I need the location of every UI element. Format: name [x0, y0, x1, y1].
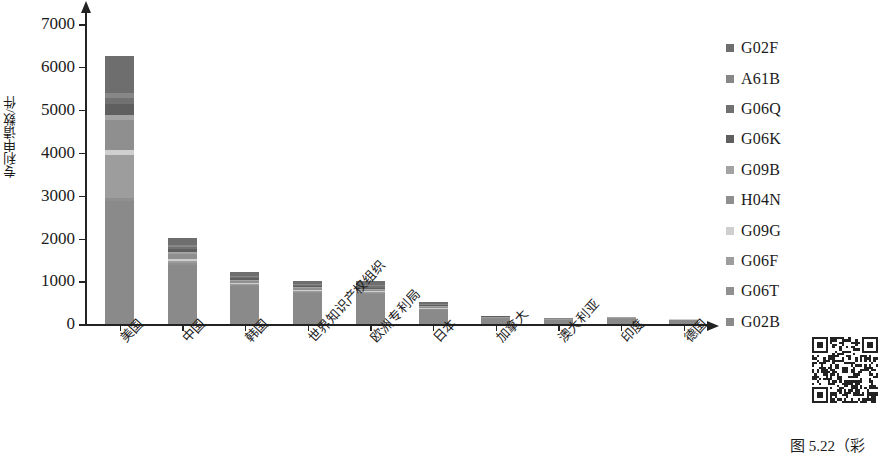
bar-2[interactable] [168, 238, 197, 325]
legend-label: G06F [741, 253, 778, 269]
legend-swatch-icon [726, 196, 734, 204]
legend-label: G09G [741, 223, 781, 239]
legend-item-G06K[interactable]: G06K [726, 124, 876, 154]
legend-item-G02F[interactable]: G02F [726, 33, 876, 63]
legend-item-G02B[interactable]: G02B [726, 307, 876, 337]
legend-label: H04N [741, 192, 781, 208]
y-tick-label: 1000 [41, 271, 75, 291]
legend-swatch-icon [726, 257, 734, 265]
bar-segment-G02B [105, 201, 134, 324]
legend-swatch-icon [726, 166, 734, 174]
bar-segment-G06K [105, 104, 134, 115]
legend-label: G09B [741, 162, 780, 178]
bar-segment-G02F [168, 238, 197, 245]
chart-legend: G02FA61BG06QG06KG09BH04NG09GG06FG06TG02B [726, 33, 876, 337]
bar-segment-H04N [105, 120, 134, 150]
y-tick-label: 5000 [41, 100, 75, 120]
legend-item-G06Q[interactable]: G06Q [726, 94, 876, 124]
legend-label: G02F [741, 40, 778, 56]
legend-swatch-icon [726, 287, 734, 295]
legend-swatch-icon [726, 44, 734, 52]
bar-segment-G02F [105, 56, 134, 92]
legend-swatch-icon [726, 105, 734, 113]
y-tick-label: 0 [67, 314, 76, 334]
legend-label: G06K [741, 131, 781, 147]
bar-1[interactable] [105, 56, 134, 324]
legend-item-G09B[interactable]: G09B [726, 155, 876, 185]
legend-swatch-icon [726, 75, 734, 83]
y-tick-mark [79, 324, 86, 325]
chart-plot-area: 专利申请数/件 01000200030004000500060007000 美国… [0, 0, 720, 457]
legend-label: A61B [741, 71, 780, 87]
legend-label: G06T [741, 283, 779, 299]
qr-code-icon[interactable] [812, 337, 878, 403]
y-tick-label: 3000 [41, 186, 75, 206]
legend-item-G06F[interactable]: G06F [726, 246, 876, 276]
legend-label: G06Q [741, 101, 781, 117]
figure-container: 专利申请数/件 01000200030004000500060007000 美国… [0, 0, 891, 457]
bar-segment-G06F [105, 155, 134, 198]
legend-swatch-icon [726, 227, 734, 235]
bar-series-group [85, 13, 715, 324]
y-tick-label: 4000 [41, 143, 75, 163]
y-tick-label: 7000 [41, 14, 75, 34]
figure-caption: 图 5.22（彩 [790, 434, 865, 455]
legend-item-G09G[interactable]: G09G [726, 215, 876, 245]
y-axis-title: 专利申请数/件 [2, 96, 22, 178]
legend-swatch-icon [726, 135, 734, 143]
y-tick-label: 6000 [41, 57, 75, 77]
legend-item-H04N[interactable]: H04N [726, 185, 876, 215]
legend-label: G02B [741, 314, 780, 330]
chart-axes: 01000200030004000500060007000 [85, 12, 715, 326]
legend-item-G06T[interactable]: G06T [726, 276, 876, 306]
y-axis-arrow-icon [81, 1, 91, 13]
legend-swatch-icon [726, 318, 734, 326]
y-tick-label: 2000 [41, 229, 75, 249]
legend-item-A61B[interactable]: A61B [726, 63, 876, 93]
